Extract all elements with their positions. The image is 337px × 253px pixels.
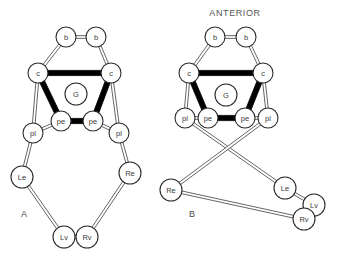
- node-circle: [101, 63, 121, 83]
- node-circle: [76, 226, 98, 248]
- anterior-heading: ANTERIOR: [209, 8, 260, 18]
- node-circle: [258, 108, 278, 128]
- panel-b: bbccGpepeplplReLeLvRvB: [160, 27, 325, 230]
- node-a-pe-left[interactable]: pe: [51, 111, 71, 131]
- node-circle: [293, 208, 315, 230]
- node-circle: [274, 177, 296, 199]
- node-a-c-right[interactable]: c: [101, 63, 121, 83]
- panel-b-label: B: [189, 209, 195, 219]
- node-a-b-left[interactable]: b: [56, 27, 76, 47]
- panel-a: bbccGpepeplplLeReLvRvA: [11, 27, 141, 248]
- node-a-le[interactable]: Le: [11, 166, 33, 188]
- node-b-rv[interactable]: Rv: [293, 208, 315, 230]
- node-a-re[interactable]: Re: [119, 162, 141, 184]
- node-circle: [51, 111, 71, 131]
- segment-connectivity-diagram: bbccGpepeplplLeReLvRvAbbccGpepeplplReLeL…: [0, 0, 337, 253]
- node-circle: [56, 27, 76, 47]
- node-b-le[interactable]: Le: [274, 177, 296, 199]
- node-circle: [23, 123, 43, 143]
- node-circle: [205, 27, 225, 47]
- node-circle: [160, 179, 182, 201]
- diagram-canvas: bbccGpepeplplLeReLvRvAbbccGpepeplplReLeL…: [0, 0, 337, 253]
- node-circle: [198, 108, 218, 128]
- node-b-b-left[interactable]: b: [205, 27, 225, 47]
- node-b-b-right[interactable]: b: [236, 27, 256, 47]
- node-b-pl-left[interactable]: pl: [175, 108, 195, 128]
- node-b-g[interactable]: G: [215, 84, 237, 106]
- node-circle: [86, 27, 106, 47]
- node-circle: [65, 83, 87, 105]
- node-a-lv[interactable]: Lv: [53, 226, 75, 248]
- panel-b-nodes: bbccGpepeplplReLeLvRv: [160, 27, 325, 230]
- node-b-c-left[interactable]: c: [179, 63, 199, 83]
- node-a-b-right[interactable]: b: [86, 27, 106, 47]
- node-circle: [53, 226, 75, 248]
- edge-b-c-left-to-b-c-right: [189, 70, 263, 75]
- node-b-re[interactable]: Re: [160, 179, 182, 201]
- node-a-pl-left[interactable]: pl: [23, 123, 43, 143]
- node-circle: [175, 108, 195, 128]
- node-circle: [109, 123, 129, 143]
- node-b-pe-left[interactable]: pe: [198, 108, 218, 128]
- node-circle: [119, 162, 141, 184]
- node-b-c-right[interactable]: c: [253, 63, 273, 83]
- node-circle: [11, 166, 33, 188]
- node-a-pe-right[interactable]: pe: [83, 111, 103, 131]
- node-a-c-left[interactable]: c: [28, 63, 48, 83]
- node-b-pe-right[interactable]: pe: [235, 108, 255, 128]
- node-b-pl-right[interactable]: pl: [258, 108, 278, 128]
- node-a-pl-right[interactable]: pl: [109, 123, 129, 143]
- node-circle: [215, 84, 237, 106]
- edge-a-c-left-to-a-c-right: [38, 70, 111, 75]
- panel-a-label: A: [21, 209, 27, 219]
- node-circle: [83, 111, 103, 131]
- panel-a-nodes: bbccGpepeplplLeReLvRv: [11, 27, 141, 248]
- node-circle: [235, 108, 255, 128]
- node-a-rv[interactable]: Rv: [76, 226, 98, 248]
- node-circle: [179, 63, 199, 83]
- node-circle: [253, 63, 273, 83]
- node-circle: [236, 27, 256, 47]
- node-a-g[interactable]: G: [65, 83, 87, 105]
- node-circle: [28, 63, 48, 83]
